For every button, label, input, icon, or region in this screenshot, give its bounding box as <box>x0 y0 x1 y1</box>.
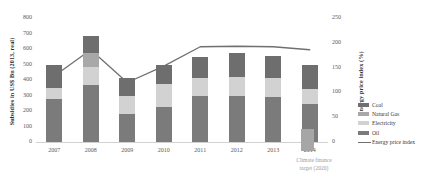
x-tick: 2013 <box>256 147 290 153</box>
y-tick-right: 0 <box>332 138 354 144</box>
bar-segment-coal <box>192 57 208 78</box>
y-tick-right: 150 <box>332 64 354 70</box>
legend-swatch-icon <box>358 131 369 135</box>
bar-stack <box>119 18 135 142</box>
y-tick-left: 0 <box>10 138 32 144</box>
legend-label: Oil <box>372 130 379 136</box>
legend-label: Energy price index <box>372 139 415 145</box>
bar-segment-electricity <box>156 84 172 107</box>
bar-segment-oil <box>119 114 135 142</box>
bar-segment-electricity <box>265 78 281 97</box>
legend-swatch-icon <box>358 142 371 143</box>
y-tick-left: 100 <box>10 123 32 129</box>
x-tick: 2012 <box>220 147 254 153</box>
bar-stack <box>46 18 62 142</box>
y-tick-right: 250 <box>332 14 354 20</box>
bar-stack <box>302 18 318 142</box>
legend-swatch-icon <box>358 112 369 116</box>
bar-segment-oil <box>229 96 245 143</box>
bar-stack <box>229 18 245 142</box>
target-label-line-1: Climate finance <box>272 157 356 165</box>
bar-segment-electricity <box>302 89 318 104</box>
bar-segment-coal <box>83 36 99 53</box>
y-tick-left: 300 <box>10 92 32 98</box>
y-tick-left: 600 <box>10 45 32 51</box>
bar-segment-coal <box>229 53 245 77</box>
bar-stack <box>192 18 208 142</box>
climate-finance-target-bar <box>301 129 314 151</box>
bar-segment-coal <box>265 56 281 78</box>
bar-segment-electricity <box>229 77 245 96</box>
bar-segment-coal <box>302 65 318 89</box>
bar-segment-coal <box>156 65 172 84</box>
y-tick-right: 50 <box>332 113 354 119</box>
bar-segment-electricity <box>119 96 135 115</box>
x-tick: 2007 <box>37 147 71 153</box>
bar-segment-oil <box>83 85 99 142</box>
bar-segment-coal <box>119 78 135 96</box>
plot-area <box>36 18 328 142</box>
y-tick-left: 200 <box>10 107 32 113</box>
y-tick-right: 200 <box>332 39 354 45</box>
bar-segment-coal <box>46 65 62 88</box>
axis-baseline <box>36 142 328 143</box>
legend-item[interactable]: Electricity <box>358 119 432 128</box>
bar-stack <box>156 18 172 142</box>
legend-swatch-icon <box>358 103 369 107</box>
x-tick: 2009 <box>110 147 144 153</box>
bar-segment-oil <box>156 107 172 142</box>
y-tick-left: 400 <box>10 76 32 82</box>
chart-legend: CoalNatural GasElectricityOilEnergy pric… <box>358 100 432 147</box>
y-tick-left: 500 <box>10 61 32 67</box>
y-tick-left: 800 <box>10 14 32 20</box>
bar-stack <box>265 18 281 142</box>
y-tick-right: 100 <box>332 88 354 94</box>
bar-segment-oil <box>265 97 281 142</box>
bar-segment-electricity <box>83 67 99 85</box>
x-tick: 2008 <box>74 147 108 153</box>
x-tick: 2010 <box>147 147 181 153</box>
chart-container: Subsidies in US$ Bn (2013, real) Energy … <box>0 0 432 185</box>
legend-item[interactable]: Coal <box>358 100 432 109</box>
y-tick-left: 700 <box>10 30 32 36</box>
bar-segment-oil <box>46 99 62 142</box>
legend-item[interactable]: Oil <box>358 128 432 137</box>
bar-segment-electricity <box>46 88 62 99</box>
legend-label: Coal <box>372 102 383 108</box>
bar-segment-natural-gas <box>83 53 99 67</box>
x-tick: 2011 <box>183 147 217 153</box>
legend-swatch-icon <box>358 121 369 125</box>
legend-label: Electricity <box>372 120 396 126</box>
bar-segment-electricity <box>192 78 208 97</box>
legend-item[interactable]: Energy price index <box>358 138 432 147</box>
bar-stack <box>83 18 99 142</box>
target-label-line-2: target (2020) <box>272 165 356 173</box>
legend-item[interactable]: Natural Gas <box>358 109 432 118</box>
legend-label: Natural Gas <box>372 111 399 117</box>
energy-price-index-line <box>36 18 328 142</box>
bar-segment-oil <box>192 96 208 142</box>
climate-finance-target-label: Climate finance target (2020) <box>272 157 356 172</box>
